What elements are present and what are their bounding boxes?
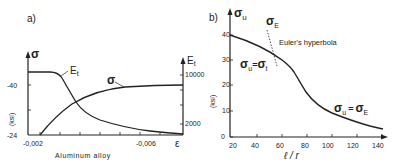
b-euler-hyperbola bbox=[267, 30, 277, 66]
a-curve-label-Et: Et bbox=[70, 65, 79, 77]
a-title: Aluminum alloy bbox=[55, 152, 111, 160]
b-x-tick-40: 40 bbox=[251, 142, 259, 149]
b-y-axis-arrow-icon bbox=[228, 8, 233, 15]
panel-a-label: a) bbox=[27, 13, 36, 24]
figure: a) σ Et -40 -24 (ksi) 10 bbox=[0, 0, 401, 165]
b-y-axis-label: σu bbox=[234, 6, 247, 22]
b-label-sigma-E: σE bbox=[266, 14, 279, 29]
b-x-tick-100: 100 bbox=[322, 142, 334, 149]
b-x-tick-60: 60 bbox=[276, 142, 284, 149]
b-label-sigma-u-eq-sigma-E: σu=σE bbox=[334, 101, 369, 116]
b-label-sigma-u-eq-sigma-t: σu=σt bbox=[240, 57, 268, 72]
a-Et-leader bbox=[61, 71, 68, 76]
panel-b: b) σu 0 10 20 30 40 (ksi) 2 bbox=[209, 6, 388, 161]
a-y2-tick-10000: 10000 bbox=[185, 71, 205, 78]
a-y-tick-24: -24 bbox=[7, 132, 17, 139]
b-label-euler: Euler's hyperbola bbox=[279, 38, 338, 47]
b-x-tick-80: 80 bbox=[301, 142, 309, 149]
b-y-tick-40: 40 bbox=[222, 31, 230, 38]
b-y-tick-0: 0 bbox=[221, 133, 225, 140]
a-curve-Et bbox=[28, 72, 183, 134]
a-y-axis-arrow-icon bbox=[26, 51, 31, 58]
b-x-axis-label: ℓ / r bbox=[283, 150, 300, 161]
b-y-unit: (ksi) bbox=[209, 95, 217, 108]
b-y-tick-10: 10 bbox=[222, 107, 230, 114]
b-y-tick-20: 20 bbox=[222, 81, 230, 88]
a-ticks bbox=[28, 75, 183, 135]
a-x-tick-0002: -0,002 bbox=[23, 140, 43, 147]
a-curve-sigma bbox=[40, 85, 183, 135]
a-y2-axis-label: Et bbox=[187, 55, 196, 67]
b-x-tick-140: 140 bbox=[372, 142, 384, 149]
a-y-unit: (ksi) bbox=[8, 113, 16, 126]
a-x-axis-label: ε bbox=[175, 138, 180, 149]
a-curve-label-sigma: σ bbox=[107, 73, 115, 87]
a-y2-tick-2000: 2000 bbox=[185, 120, 201, 127]
a-sigma-leader bbox=[115, 82, 124, 87]
a-x-tick-0006: -0,006 bbox=[136, 140, 156, 147]
b-x-tick-20: 20 bbox=[229, 142, 237, 149]
a-y-tick-40: -40 bbox=[7, 82, 17, 89]
panel-b-label: b) bbox=[209, 12, 218, 23]
a-y-axis-label: σ bbox=[31, 47, 39, 61]
b-x-tick-120: 120 bbox=[347, 142, 359, 149]
b-y-tick-30: 30 bbox=[222, 56, 230, 63]
panel-a: a) σ Et -40 -24 (ksi) 10 bbox=[7, 13, 205, 160]
a-y2-axis-arrow-icon bbox=[181, 57, 186, 64]
